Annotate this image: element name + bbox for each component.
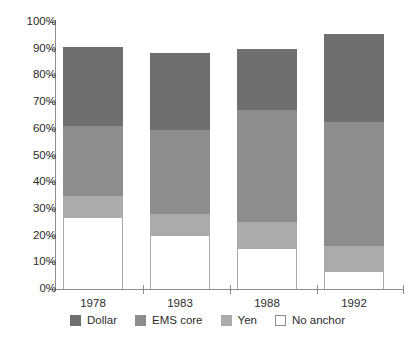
bar-segment-no-anchor[interactable] — [237, 249, 297, 289]
bar-segment-dollar[interactable] — [237, 49, 297, 110]
bar-segment-dollar[interactable] — [324, 34, 384, 122]
y-tick-label: 10% — [12, 256, 56, 268]
legend-item-no-anchor[interactable]: No anchor — [275, 314, 345, 326]
y-tick-label: 70% — [12, 96, 56, 108]
bar-segment-yen[interactable] — [324, 246, 384, 271]
x-tick-mark — [317, 285, 318, 294]
legend-item-dollar[interactable]: Dollar — [70, 314, 117, 326]
swatch-no-anchor-icon — [275, 315, 286, 326]
y-tick-label: 0% — [12, 283, 56, 295]
bar-segment-ems-core[interactable] — [150, 130, 210, 214]
bar-1983[interactable] — [150, 53, 210, 289]
x-label-1992: 1992 — [324, 297, 384, 309]
y-tick-label: 50% — [12, 150, 56, 162]
legend-label: No anchor — [292, 314, 345, 326]
bar-segment-no-anchor[interactable] — [324, 272, 384, 289]
bar-segment-yen[interactable] — [150, 214, 210, 235]
bar-segment-yen[interactable] — [237, 222, 297, 249]
bar-1988[interactable] — [237, 49, 297, 289]
x-tick-mark — [143, 285, 144, 294]
legend-item-ems-core[interactable]: EMS core — [135, 314, 203, 326]
y-tick-label: 20% — [12, 230, 56, 242]
y-tick-label: 40% — [12, 176, 56, 188]
y-tick-label: 60% — [12, 123, 56, 135]
swatch-ems-core-icon — [135, 315, 146, 326]
x-tick-mark — [403, 285, 404, 294]
bar-segment-dollar[interactable] — [150, 53, 210, 130]
x-label-1988: 1988 — [237, 297, 297, 309]
x-tick-mark — [230, 285, 231, 294]
bar-segment-dollar[interactable] — [63, 47, 123, 126]
y-tick-label: 30% — [12, 203, 56, 215]
legend-item-yen[interactable]: Yen — [221, 314, 257, 326]
bar-segment-ems-core[interactable] — [324, 122, 384, 246]
y-tick-label: 80% — [12, 69, 56, 81]
legend-label: EMS core — [152, 314, 203, 326]
bar-segment-ems-core[interactable] — [237, 110, 297, 222]
swatch-yen-icon — [221, 315, 232, 326]
bar-1992[interactable] — [324, 34, 384, 289]
bar-segment-ems-core[interactable] — [63, 126, 123, 195]
swatch-dollar-icon — [70, 315, 81, 326]
bar-segment-yen[interactable] — [63, 196, 123, 219]
bar-1978[interactable] — [63, 47, 123, 289]
y-tick-label: 100% — [12, 16, 56, 28]
y-tick-label: 90% — [12, 43, 56, 55]
bar-segment-no-anchor[interactable] — [63, 218, 123, 289]
bar-segment-no-anchor[interactable] — [150, 236, 210, 289]
chart-legend: Dollar EMS core Yen No anchor — [0, 314, 415, 326]
x-label-1983: 1983 — [150, 297, 210, 309]
x-label-1978: 1978 — [63, 297, 123, 309]
legend-label: Yen — [238, 314, 257, 326]
legend-label: Dollar — [87, 314, 117, 326]
stacked-bar-chart: 100% 90% 80% 70% 60% 50% 40% 30% 20% 10%… — [0, 0, 415, 350]
